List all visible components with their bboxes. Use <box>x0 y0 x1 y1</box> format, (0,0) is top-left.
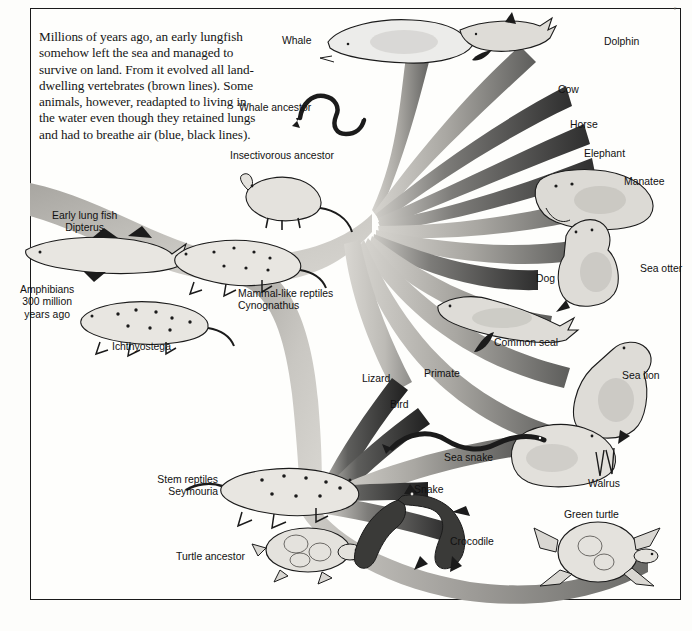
label-insectivorous-ancestor: Insectivorous ancestor <box>230 150 334 162</box>
label-sea-lion: Sea lion <box>622 370 660 382</box>
label-stem-reptiles: Stem reptiles Seymouria <box>112 474 218 499</box>
label-sea-otter: Sea otter <box>640 263 682 275</box>
label-whale: Whale <box>282 35 311 47</box>
label-crocodile: Crocodile <box>450 536 494 548</box>
figure-page: r <box>0 0 692 631</box>
label-bird: Bird <box>390 399 408 411</box>
label-manatee: Manatee <box>624 176 664 188</box>
label-green-turtle: Green turtle <box>564 509 619 521</box>
label-horse: Horse <box>570 119 598 131</box>
label-ichthyostega: Ichthyostega <box>112 341 171 353</box>
intro-paragraph: Millions of years ago, an early lungfish… <box>39 29 257 143</box>
label-common-seal: Common seal <box>494 337 558 349</box>
label-dog: Dog <box>536 273 555 285</box>
label-whale-ancestor: Whale ancestor <box>239 102 311 114</box>
label-amphibians: Amphibians 300 million years ago <box>20 284 74 321</box>
label-cow: Cow <box>558 84 579 96</box>
label-turtle-ancestor: Turtle ancestor <box>176 551 245 563</box>
label-primate: Primate <box>424 368 460 380</box>
corner-mark: r <box>674 4 676 12</box>
label-snake: Snake <box>414 484 443 496</box>
label-mammal-like-reptiles: Mammal-like reptiles Cynognathus <box>238 288 333 313</box>
label-dolphin: Dolphin <box>604 36 639 48</box>
label-walrus: Walrus <box>588 478 620 490</box>
label-sea-snake: Sea snake <box>444 452 493 464</box>
label-early-lung-fish: Early lung fish Dipterus <box>52 210 117 235</box>
label-elephant: Elephant <box>584 148 625 160</box>
label-lizard: Lizard <box>362 373 390 385</box>
